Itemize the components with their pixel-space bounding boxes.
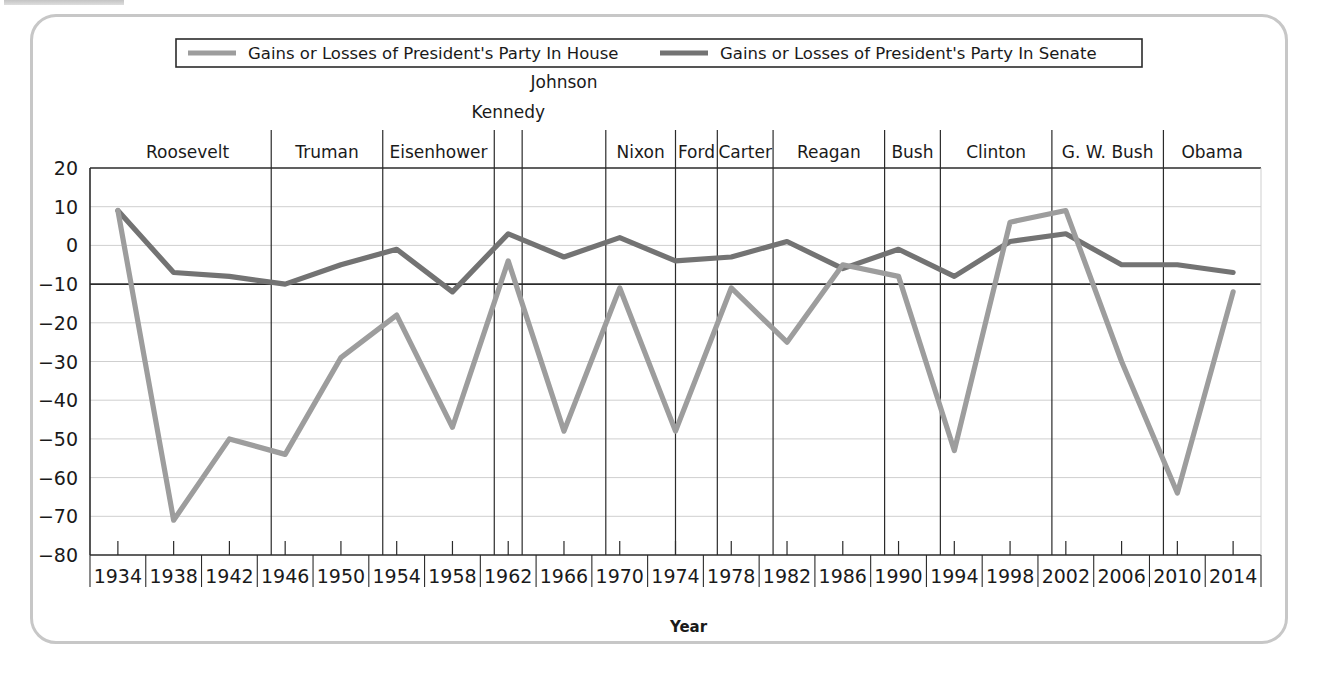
x-axis-tick-label: 1986	[819, 565, 867, 587]
y-axis-tick-label: −80	[38, 544, 78, 566]
legend-label-house: Gains or Losses of President's Party In …	[248, 44, 618, 63]
y-axis-tick-label: −70	[38, 505, 78, 527]
president-label: Eisenhower	[389, 142, 487, 162]
y-axis-tick-label: 10	[54, 196, 78, 218]
legend-label-senate: Gains or Losses of President's Party In …	[720, 44, 1097, 63]
x-axis-tick-label: 1934	[94, 565, 142, 587]
y-axis-tick-label: −50	[38, 428, 78, 450]
x-axis-tick-label: 1990	[874, 565, 922, 587]
x-axis-tick-label: 1998	[986, 565, 1034, 587]
x-axis-tick-label: 2010	[1153, 565, 1201, 587]
president-label: Carter	[719, 142, 772, 162]
president-label: Clinton	[966, 142, 1026, 162]
x-axis-tick-label: 2006	[1097, 565, 1145, 587]
x-axis-tick-label: 1946	[261, 565, 309, 587]
chart-svg: 20100−10−20−30−40−50−60−70−80RooseveltTr…	[0, 0, 1318, 675]
y-axis-tick-label: −30	[38, 351, 78, 373]
president-label: Nixon	[617, 142, 665, 162]
x-axis-tick-label: 1938	[149, 565, 197, 587]
x-axis-tick-label: 1974	[651, 565, 699, 587]
president-label: Kennedy	[471, 102, 545, 122]
chart-figure: 20100−10−20−30−40−50−60−70−80RooseveltTr…	[0, 0, 1318, 675]
x-axis-tick-label: 1982	[763, 565, 811, 587]
y-axis-tick-label: 0	[66, 234, 78, 256]
x-axis-tick-label: 1994	[930, 565, 978, 587]
x-axis-tick-label: 1962	[484, 565, 532, 587]
x-axis-tick-label: 1966	[540, 565, 588, 587]
x-axis-tick-label: 2014	[1209, 565, 1257, 587]
president-label: G. W. Bush	[1062, 142, 1154, 162]
x-axis-tick-label: 1954	[373, 565, 421, 587]
president-label: Reagan	[797, 142, 861, 162]
president-label: Roosevelt	[146, 142, 229, 162]
y-axis-tick-label: −20	[38, 312, 78, 334]
x-axis-tick-label: 1978	[707, 565, 755, 587]
president-label: Truman	[294, 142, 358, 162]
president-label: Obama	[1181, 142, 1243, 162]
x-axis-tick-label: 1950	[317, 565, 365, 587]
x-axis-title: Year	[669, 618, 708, 636]
x-axis-tick-label: 2002	[1042, 565, 1090, 587]
y-axis-tick-label: 20	[54, 157, 78, 179]
y-axis-tick-label: −10	[38, 273, 78, 295]
president-label: Ford	[678, 142, 715, 162]
president-label: Bush	[891, 142, 933, 162]
x-axis-tick-label: 1958	[428, 565, 476, 587]
president-label: Johnson	[529, 72, 597, 92]
x-axis-tick-label: 1942	[205, 565, 253, 587]
y-axis-tick-label: −40	[38, 389, 78, 411]
x-axis-tick-label: 1970	[596, 565, 644, 587]
y-axis-tick-label: −60	[38, 467, 78, 489]
